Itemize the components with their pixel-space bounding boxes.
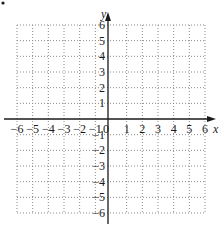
y-tick-label: 1 (99, 96, 105, 110)
y-tick-label: 5 (99, 34, 105, 48)
x-tick-label: −5 (26, 122, 39, 136)
y-tick-label: −2 (92, 143, 105, 157)
y-tick-label: −5 (92, 190, 105, 204)
y-tick-label: −1 (92, 128, 105, 142)
x-tick-label: 1 (124, 122, 130, 136)
y-tick-label: −3 (92, 159, 105, 173)
y-tick-label: 2 (99, 81, 105, 95)
x-axis-label: x (212, 122, 219, 136)
y-tick-label: −6 (92, 206, 105, 220)
bullet-marker (1, 1, 4, 4)
y-tick-label: 3 (99, 65, 105, 79)
x-tick-label: 4 (171, 122, 177, 136)
y-tick-label: 4 (99, 49, 105, 63)
x-tick-label: 3 (155, 122, 161, 136)
y-axis-label: y (100, 7, 107, 21)
x-tick-label: 6 (202, 122, 208, 136)
coordinate-plane: −6−5−4−3−2−10123456123456−1−2−3−4−5−6 x … (0, 0, 224, 233)
y-tick-label: −4 (92, 175, 105, 189)
x-tick-label: −2 (73, 122, 86, 136)
x-tick-label: 5 (186, 122, 192, 136)
x-tick-label: −6 (11, 122, 24, 136)
x-tick-label: −3 (58, 122, 71, 136)
axes (4, 12, 216, 224)
x-tick-label: 2 (139, 122, 145, 136)
x-tick-label: −4 (42, 122, 55, 136)
